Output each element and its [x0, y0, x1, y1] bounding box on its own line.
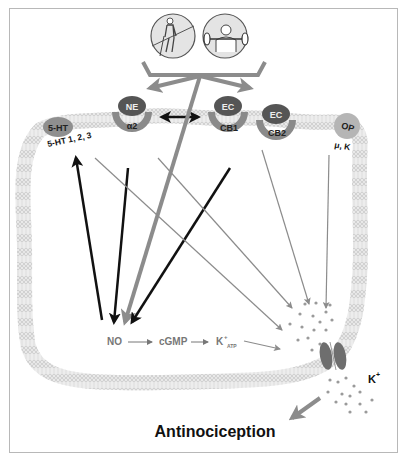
receptor-label-cb1: CB1 [220, 123, 238, 133]
bracket-arrow-left [150, 76, 200, 88]
potassium-ion-dot [352, 384, 355, 387]
potassium-ion-dot [370, 398, 373, 401]
potassium-ion-dot [344, 376, 347, 379]
potassium-ion-dot [326, 390, 329, 393]
katp-label-sub: ATP [227, 343, 237, 349]
potassium-ion-dot [328, 303, 331, 306]
alpha2-to-no-arrow [114, 168, 128, 322]
potassium-ion-dot [348, 394, 351, 397]
potassium-ion-dot [324, 310, 327, 313]
ligand-label-ec-1: EC [222, 102, 235, 112]
potassium-ion-dot [311, 314, 314, 317]
receptor-label-alpha2: α2 [127, 121, 138, 131]
potassium-ion-dot [296, 338, 299, 341]
potassium-ion-dot [303, 302, 306, 305]
potassium-ion-dot [344, 402, 347, 405]
potassium-ion-dot [318, 342, 321, 345]
no-label: NO [107, 336, 122, 347]
potassium-ion-dot [364, 410, 367, 413]
katp-label: K + ATP [216, 334, 237, 349]
potassium-ion-dot [340, 392, 343, 395]
potassium-ion-dot [318, 320, 321, 323]
ligand-label-ec-2: EC [270, 110, 283, 120]
5ht-to-k-arrow [95, 158, 282, 330]
potassium-ion-dot [348, 410, 351, 413]
potassium-ion-dot [300, 325, 303, 328]
diagram-canvas: 5-HT 5-HT 1, 2, 3 NE α2 EC CB1 EC CB2 OP… [0, 0, 403, 457]
receptor-cb2: EC CB2 [256, 104, 296, 140]
potassium-ion-dot [358, 390, 361, 393]
potassium-ion-dot [324, 328, 327, 331]
potassium-ion-dot [312, 328, 315, 331]
opioid-to-k-arrow [326, 155, 329, 308]
potassium-ion-dot [358, 402, 361, 405]
receptor-label-cb2: CB2 [268, 128, 286, 138]
cell-membrane [23, 116, 361, 383]
potassium-ion-dot [314, 301, 317, 304]
katp-to-k-arrow [244, 341, 280, 349]
bracket-arrow-right [200, 76, 250, 88]
k-ion-label: K + [368, 371, 380, 385]
potassium-ion-dot [334, 400, 337, 403]
aerobic-exercise-icon [151, 14, 195, 58]
katp-label-base: K [216, 336, 224, 347]
potassium-ion-dot [336, 380, 339, 383]
ligand-label-5ht: 5-HT [48, 123, 69, 133]
outcome-arrow [292, 398, 320, 418]
potassium-ion-dot [330, 318, 333, 321]
receptor-label-mu-kappa: μ, K [334, 140, 352, 153]
no-to-5ht-arrow [76, 158, 102, 320]
potassium-ion-dot [328, 378, 331, 381]
potassium-ion-dot [306, 336, 309, 339]
outcome-label: Antinociception [155, 423, 276, 440]
potassium-ion-dot [298, 312, 301, 315]
cgmp-label: cGMP [159, 336, 188, 347]
cb2-to-k-arrow [262, 150, 309, 304]
katp-label-sup: + [224, 334, 228, 340]
potassium-ion-dot [310, 348, 313, 351]
k-ion-label-base: K [368, 373, 376, 385]
ligand-label-ne: NE [126, 102, 139, 112]
resistance-exercise-icon [203, 14, 248, 58]
receptor-cb1: EC CB1 [208, 96, 248, 133]
exercise-bracket [143, 62, 265, 75]
k-ion-label-sup: + [376, 371, 380, 378]
potassium-ion-dot [288, 322, 291, 325]
